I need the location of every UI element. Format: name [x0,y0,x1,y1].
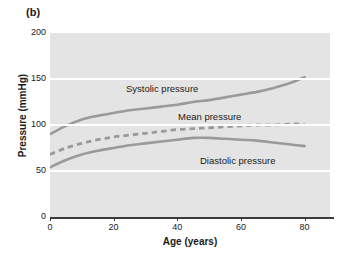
figure-panel-b: (b) Systolic pressure Mean pressure Dias… [0,0,341,262]
gridline-50 [50,170,330,172]
x-tick-60 [241,217,242,221]
x-tick-40 [177,217,178,221]
series-label-diastolic: Diastolic pressure [200,155,276,166]
plot-area: Systolic pressure Mean pressure Diastoli… [50,33,330,217]
gridline-100 [50,124,330,126]
series-label-systolic: Systolic pressure [126,83,198,94]
x-tick-label-40: 40 [165,222,189,232]
x-tick-0 [50,217,51,221]
gridline-150 [50,78,330,80]
x-axis-line [50,217,334,219]
y-tick-label-0: 0 [20,211,46,221]
y-tick-label-200: 200 [20,27,46,37]
y-axis-title: Pressure (mmHg) [17,41,28,191]
x-tick-80 [305,217,306,221]
x-tick-label-20: 20 [102,222,126,232]
x-tick-20 [114,217,115,221]
x-axis-title: Age (years) [50,236,330,247]
x-tick-label-80: 80 [293,222,317,232]
x-tick-label-60: 60 [229,222,253,232]
series-label-mean: Mean pressure [178,111,241,122]
